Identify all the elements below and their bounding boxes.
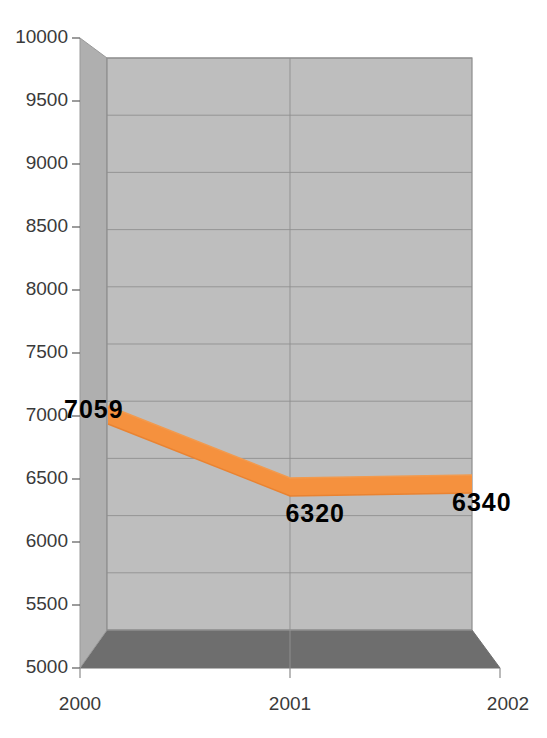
y-axis-labels: 10000 9500 9000 8500 8000 7500 7000 6500…	[15, 26, 68, 677]
x-tick-2000: 2000	[59, 693, 101, 714]
y-tick-7500: 7500	[26, 341, 68, 362]
y-tick-9000: 9000	[26, 152, 68, 173]
data-label-2002: 6340	[452, 488, 512, 516]
line-chart-3d: 10000 9500 9000 8500 8000 7500 7000 6500…	[0, 0, 547, 738]
x-tick-2001: 2001	[269, 693, 311, 714]
y-axis-ticks	[72, 38, 80, 668]
chart-canvas: 10000 9500 9000 8500 8000 7500 7000 6500…	[0, 0, 547, 738]
x-axis-ticks	[80, 668, 500, 678]
y-tick-8000: 8000	[26, 278, 68, 299]
y-tick-6500: 6500	[26, 467, 68, 488]
y-tick-6000: 6000	[26, 530, 68, 551]
chart-side-wall-3d	[80, 38, 107, 668]
y-tick-10000: 10000	[15, 26, 68, 47]
y-tick-5000: 5000	[26, 656, 68, 677]
data-label-2000: 7059	[64, 395, 124, 423]
x-axis-labels: 2000 2001 2002	[59, 693, 529, 714]
data-label-2001: 6320	[285, 499, 345, 527]
y-tick-7000: 7000	[26, 404, 68, 425]
y-tick-5500: 5500	[26, 593, 68, 614]
y-tick-8500: 8500	[26, 215, 68, 236]
x-tick-2002: 2002	[487, 693, 529, 714]
y-tick-9500: 9500	[26, 89, 68, 110]
